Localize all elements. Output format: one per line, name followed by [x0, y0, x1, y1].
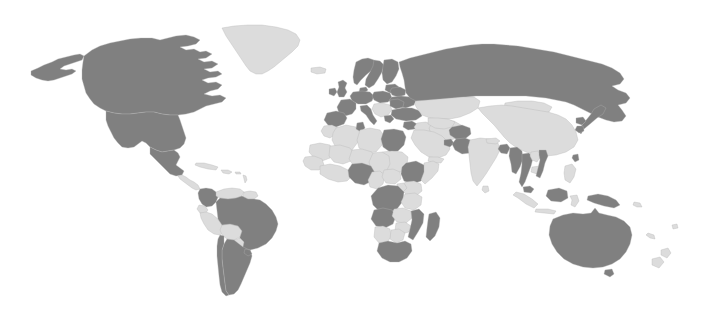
region-puerto-rico — [235, 172, 241, 174]
world-map-figure — [0, 0, 710, 310]
world-map-svg — [0, 0, 710, 310]
region-fiji — [672, 224, 678, 229]
